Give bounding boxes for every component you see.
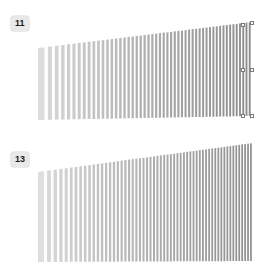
stripe [199,150,201,261]
stripe [143,158,145,262]
stripe [227,146,229,261]
stripe [132,159,134,261]
stripe [38,171,44,262]
stripe [70,167,73,262]
stripe [214,148,216,261]
stripe [121,161,123,262]
design-canvas[interactable]: 11 13 [0,0,269,276]
stripe [79,166,82,262]
stripe [176,153,178,261]
stripe [193,151,195,261]
stripe [173,154,175,262]
stripe [241,144,243,261]
stripe [59,169,62,262]
stripe [189,151,191,261]
stripe [65,168,68,262]
handle-bottom-inner[interactable] [241,114,245,118]
stripe [84,165,87,261]
stripe [167,154,169,261]
stripe [139,158,141,261]
stripe [156,156,158,262]
stripe [202,150,204,262]
stripe [47,170,51,262]
stripe [250,143,252,261]
stripe [230,146,232,261]
handle-bottom-right[interactable] [250,114,254,118]
stripe [109,162,111,262]
shape-label-badge-11: 11 [11,16,29,31]
stripe [180,153,182,262]
stripe [208,149,210,261]
handle-top-right[interactable] [250,21,254,25]
stripe [117,161,119,262]
stripe [54,169,57,261]
shape-panel-13[interactable] [0,0,269,276]
handle-middle-right[interactable] [250,68,254,72]
stripe [97,164,99,262]
stripe [183,152,185,261]
stripe [247,144,249,261]
stripe [128,160,130,262]
stripe [196,150,198,261]
stripe [146,157,148,261]
stripe [205,149,207,261]
stripe [163,155,165,262]
stripe [244,144,246,261]
handle-top-inner[interactable] [241,23,245,27]
stripe [101,163,103,262]
stripe [220,147,222,261]
shape-13-stripes[interactable] [0,0,269,276]
stripe [224,147,226,261]
stripe [170,154,172,261]
stripe [93,164,95,261]
stripe [150,157,152,262]
stripe [75,167,78,262]
stripe [160,155,162,261]
stripe [211,148,213,261]
stripe [235,145,237,261]
handle-middle-left-inner[interactable] [241,68,245,72]
stripe [88,165,91,262]
stripe [135,159,137,262]
shape-label-badge-13: 13 [11,152,29,167]
stripe [113,162,115,262]
stripe [153,156,155,261]
stripe [238,145,240,261]
stripe [124,160,126,262]
stripe [217,148,219,262]
stripe [105,163,107,262]
stripe [232,146,234,262]
stripe [186,152,188,262]
